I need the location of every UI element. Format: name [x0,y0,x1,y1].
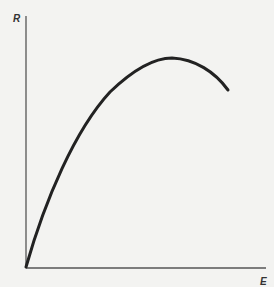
y-axis-label: R [13,13,20,24]
data-curve [26,58,228,267]
x-axis-label: E [260,276,267,287]
